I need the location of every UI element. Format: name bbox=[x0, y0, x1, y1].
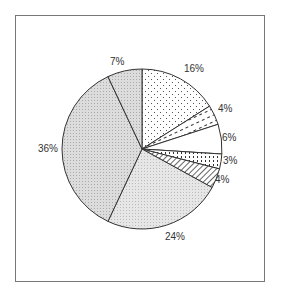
slice-label-24: 24% bbox=[165, 231, 185, 242]
slice-label-3: 3% bbox=[223, 155, 237, 166]
slice-label-4a: 4% bbox=[218, 103, 232, 114]
slice-label-16: 16% bbox=[184, 63, 204, 74]
slice-label-4b: 4% bbox=[215, 174, 229, 185]
slice-label-7: 7% bbox=[110, 56, 124, 67]
slice-label-36: 36% bbox=[38, 143, 58, 154]
slice-label-6: 6% bbox=[222, 132, 236, 143]
